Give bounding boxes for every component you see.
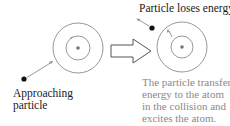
- nucleus-dot: [76, 46, 80, 50]
- particle-dot: [21, 76, 26, 81]
- approaching-label-line2: particle: [13, 99, 47, 111]
- approaching-label-line1: Approaching: [13, 87, 73, 99]
- depart-arrow-line: [139, 20, 149, 26]
- particle-dot: [149, 25, 154, 30]
- particle-loses-energy-label: Particle loses energy: [139, 2, 230, 14]
- nucleus-dot: [180, 45, 184, 49]
- transition-arrow-icon: [111, 39, 151, 63]
- excitation-arrowhead-icon: [167, 29, 170, 33]
- electron-mark: [70, 37, 73, 38]
- atom-after: [157, 22, 207, 72]
- approach-arrow-line: [27, 62, 52, 78]
- departing-particle: [136, 19, 155, 31]
- caption-line-4: excites the atom.: [142, 112, 216, 125]
- approaching-particle: [21, 61, 53, 82]
- atom-before: [53, 23, 103, 73]
